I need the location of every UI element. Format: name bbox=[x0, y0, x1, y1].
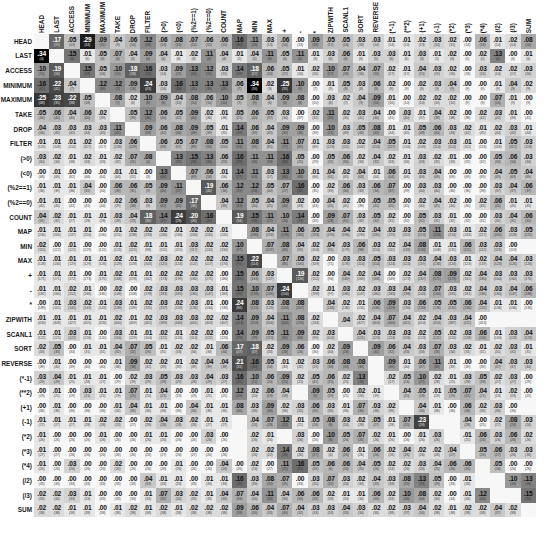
matrix-cell: .01(184) bbox=[49, 283, 64, 298]
matrix-cell-count: (30) bbox=[247, 365, 262, 369]
matrix-cell-count: (27) bbox=[34, 423, 49, 427]
matrix-cell-count: (134) bbox=[399, 145, 414, 149]
matrix-cell-value: .01 bbox=[399, 124, 414, 131]
matrix-cell: .05(132) bbox=[444, 298, 459, 313]
matrix-cell-value: .07 bbox=[384, 182, 399, 189]
matrix-cell-value: .03 bbox=[490, 109, 505, 116]
matrix-cell-value: .05 bbox=[338, 80, 353, 87]
matrix-cell-value: .04 bbox=[156, 387, 171, 394]
matrix-cell: .04(37) bbox=[490, 503, 505, 518]
matrix-cell: .05(33) bbox=[49, 341, 64, 356]
matrix-cell-count: (123) bbox=[490, 262, 505, 266]
matrix-cell: .04(9) bbox=[444, 78, 459, 93]
matrix-cell-value: .02 bbox=[444, 109, 459, 116]
matrix-cell: .03(33) bbox=[384, 473, 399, 488]
matrix-cell: .01(136) bbox=[490, 298, 505, 313]
matrix-cell-count: (28) bbox=[140, 423, 155, 427]
matrix-cell: .00(136) bbox=[216, 298, 231, 313]
matrix-cell-count: (10) bbox=[216, 101, 231, 105]
matrix-cell-value: .02 bbox=[292, 358, 307, 365]
matrix-cell-value: .02 bbox=[353, 475, 368, 482]
matrix-cell-value: .02 bbox=[384, 460, 399, 467]
matrix-cell-value: .02 bbox=[186, 416, 201, 423]
matrix-cell: .34(4) bbox=[34, 49, 49, 64]
matrix-cell-count: (34) bbox=[247, 511, 262, 515]
matrix-cell: .09(259) bbox=[247, 312, 262, 327]
matrix-cell-value: .01 bbox=[490, 36, 505, 43]
matrix-cell: .00(33) bbox=[292, 473, 307, 488]
matrix-cell-value: .02 bbox=[80, 153, 95, 160]
matrix-cell-value: .04 bbox=[216, 490, 231, 497]
matrix-cell-count: (2) bbox=[232, 57, 247, 61]
matrix-cell: .02(152) bbox=[64, 283, 79, 298]
matrix-cell-count: (36) bbox=[429, 409, 444, 413]
matrix-cell-count: (9) bbox=[292, 87, 307, 91]
matrix-cell: .02(136) bbox=[338, 298, 353, 313]
matrix-cell-value: .11 bbox=[262, 153, 277, 160]
matrix-cell-value: .00 bbox=[475, 314, 490, 321]
matrix-cell-count: (32) bbox=[444, 219, 459, 223]
matrix-cell-count: (123) bbox=[414, 336, 429, 340]
matrix-cell-count: (25) bbox=[475, 423, 490, 427]
matrix-cell-value: .02 bbox=[186, 226, 201, 233]
matrix-cell-count: (32) bbox=[399, 219, 414, 223]
matrix-cell: .01(14) bbox=[490, 34, 505, 49]
matrix-cell-count: (238) bbox=[125, 233, 140, 237]
matrix-cell-value: .03 bbox=[414, 153, 429, 160]
matrix-cell-count: (33) bbox=[49, 350, 64, 354]
matrix-cell-count: (141) bbox=[64, 306, 79, 310]
matrix-cell: .02(233) bbox=[140, 224, 155, 239]
matrix-row-header: (**2) bbox=[0, 385, 34, 400]
matrix-cell: .06(33) bbox=[308, 488, 323, 503]
matrix-cell-count: (9) bbox=[338, 87, 353, 91]
matrix-cell-value: .01 bbox=[49, 314, 64, 321]
matrix-cell-count: (5) bbox=[460, 57, 475, 61]
matrix-cell bbox=[505, 312, 520, 327]
matrix-cell-count: (105) bbox=[140, 262, 155, 266]
matrix-cell-value: .02 bbox=[490, 373, 505, 380]
matrix-cell-count: (124) bbox=[171, 262, 186, 266]
matrix-column-header: (>0) bbox=[156, 0, 171, 34]
matrix-cell: .02(31) bbox=[490, 341, 505, 356]
matrix-cell-value: .02 bbox=[338, 197, 353, 204]
matrix-cell-count: (148) bbox=[125, 292, 140, 296]
matrix-cell-value: .10 bbox=[34, 65, 49, 72]
matrix-cell-count: (130) bbox=[490, 336, 505, 340]
matrix-cell: .02(28) bbox=[186, 415, 201, 430]
matrix-cell-value: .24 bbox=[171, 212, 186, 219]
matrix-cell-count: (38) bbox=[125, 204, 140, 208]
matrix-cell: .01(38) bbox=[110, 503, 125, 518]
matrix-cell: .14(18) bbox=[232, 63, 247, 78]
matrix-cell-value: .03 bbox=[429, 212, 444, 219]
matrix-cell-value: .01 bbox=[64, 241, 79, 248]
matrix-cell-value: .06 bbox=[125, 197, 140, 204]
matrix-cell-value: .06 bbox=[292, 226, 307, 233]
matrix-cell: .06(15) bbox=[201, 34, 216, 49]
matrix-cell-count: (34) bbox=[216, 350, 231, 354]
matrix-cell: .09(6) bbox=[277, 93, 292, 108]
matrix-cell-count: (44) bbox=[353, 131, 368, 135]
matrix-cell-count: (33) bbox=[308, 497, 323, 501]
matrix-cell-value: .02 bbox=[384, 490, 399, 497]
matrix-cell: .00(27) bbox=[125, 415, 140, 430]
matrix-cell: .13(33) bbox=[414, 473, 429, 488]
matrix-cell-count: (31) bbox=[505, 219, 520, 223]
matrix-cell: .03(29) bbox=[171, 371, 186, 386]
matrix-cell-value: .03 bbox=[429, 36, 444, 43]
matrix-column-header: (*3) bbox=[460, 0, 475, 34]
matrix-cell-count: (27) bbox=[262, 467, 277, 471]
matrix-cell-count: (69) bbox=[490, 175, 505, 179]
matrix-cell-count: (38) bbox=[460, 511, 475, 515]
matrix-cell-value: .02 bbox=[414, 329, 429, 336]
matrix-cell-value: .03 bbox=[353, 36, 368, 43]
matrix-cell-value: .00 bbox=[475, 416, 490, 423]
matrix-cell-value: .10 bbox=[323, 65, 338, 72]
matrix-cell: .03(16) bbox=[156, 78, 171, 93]
matrix-cell: .04(37) bbox=[505, 180, 520, 195]
matrix-column-header-label: LAST bbox=[49, 16, 64, 33]
matrix-cell-count: (26) bbox=[414, 467, 429, 471]
matrix-cell-count: (5) bbox=[247, 57, 262, 61]
matrix-cell-count: (128) bbox=[125, 262, 140, 266]
matrix-cell-value: .03 bbox=[110, 329, 125, 336]
matrix-cell-value: .05 bbox=[308, 226, 323, 233]
